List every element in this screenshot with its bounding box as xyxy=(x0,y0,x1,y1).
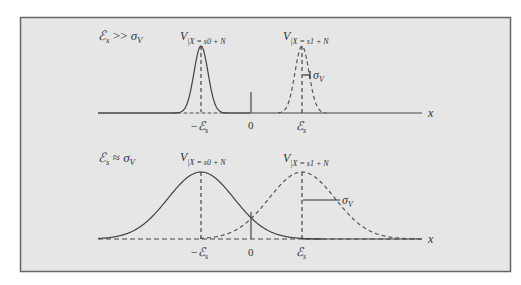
axis-label-x-bottom: x xyxy=(427,232,434,246)
figure-frame xyxy=(21,18,511,272)
gaussian-decision-diagram: ℰs >> σV x 0 σV V|X = s0 + N V|X = s1 + … xyxy=(0,0,521,285)
tick-zero-top: 0 xyxy=(248,119,254,131)
tick-zero-bottom: 0 xyxy=(248,246,254,258)
axis-label-x-top: x xyxy=(427,106,434,120)
